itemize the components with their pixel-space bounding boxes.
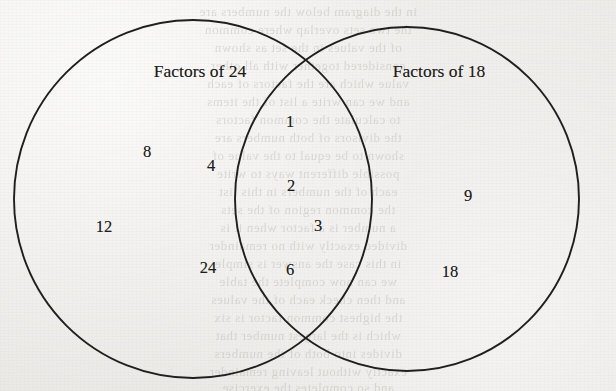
- venn-number-4: 4: [207, 156, 215, 176]
- venn-number-2: 2: [287, 176, 295, 196]
- venn-number-8: 8: [143, 142, 151, 162]
- scanned-page: in the diagram below the numbers arethe …: [0, 0, 616, 391]
- venn-number-6: 6: [286, 260, 294, 280]
- venn-number-3: 3: [314, 216, 322, 236]
- venn-number-12: 12: [96, 217, 113, 237]
- venn-number-1: 1: [286, 112, 294, 132]
- left-set-label: Factors of 24: [154, 61, 246, 82]
- venn-number-24: 24: [200, 258, 217, 278]
- right-set-label: Factors of 18: [393, 61, 485, 82]
- venn-diagram-canvas: [0, 0, 616, 391]
- venn-number-18: 18: [442, 262, 459, 282]
- venn-number-9: 9: [464, 186, 472, 206]
